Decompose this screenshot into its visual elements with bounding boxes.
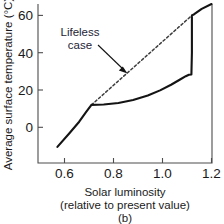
y-axis-title: Average surface temperature (°C) <box>2 0 14 170</box>
y-tick-label-3: 60 <box>18 8 33 23</box>
y-tick-label-2: 40 <box>18 46 33 61</box>
x-tick-label-3: 1.2 <box>202 166 221 181</box>
x-tick-label-1: 0.8 <box>104 166 123 181</box>
figure-panel-b: 0.6 0.8 1.0 1.2 60 40 20 0 Average surfa… <box>0 0 224 224</box>
x-tick-label-2: 1.0 <box>153 166 172 181</box>
y-axis-ticks <box>38 15 43 127</box>
x-axis-title-line2: (relative to present value) <box>60 199 190 211</box>
chart-canvas: 0.6 0.8 1.0 1.2 60 40 20 0 Average surfa… <box>0 0 224 224</box>
series-line-lifeless-case <box>91 15 191 105</box>
lifeless-case-arrow-shaft <box>98 45 124 70</box>
y-tick-label-0: 0 <box>25 120 33 135</box>
y-tick-label-1: 20 <box>18 83 33 98</box>
x-axis-title-line1: Solar luminosity <box>84 186 165 198</box>
x-axis-ticks <box>65 158 212 163</box>
lifeless-case-arrow <box>98 45 128 74</box>
lifeless-case-arrow-head <box>119 66 128 73</box>
lifeless-case-label-line2: case <box>68 39 92 51</box>
lifeless-case-label-line1: Lifeless <box>61 26 100 38</box>
x-tick-label-0: 0.6 <box>55 166 74 181</box>
panel-label: (b) <box>118 212 132 224</box>
